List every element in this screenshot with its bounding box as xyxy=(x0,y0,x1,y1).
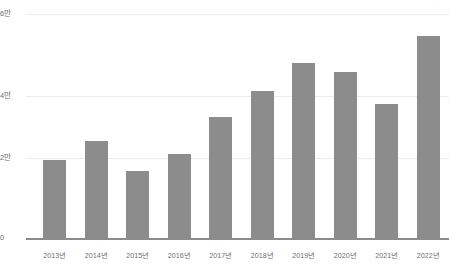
x-tick-label: 2017년 xyxy=(198,252,244,259)
y-tick-label-6: 6만 xyxy=(0,10,24,18)
y-tick-label-4: 4만 xyxy=(0,92,24,100)
bar[interactable] xyxy=(334,72,357,238)
y-tick-label-2: 2만 xyxy=(0,154,24,162)
bar[interactable] xyxy=(292,63,315,238)
x-tick-label: 2018년 xyxy=(239,252,285,259)
bar-series: 2013년2014년2015년2016년2017년2018년2019년2020년… xyxy=(26,0,449,267)
x-tick-label: 2020년 xyxy=(322,252,368,259)
x-tick-label: 2016년 xyxy=(156,252,202,259)
x-tick-label: 2019년 xyxy=(281,252,327,259)
x-tick-label: 2022년 xyxy=(405,252,449,259)
bar[interactable] xyxy=(375,104,398,238)
bar[interactable] xyxy=(43,160,66,238)
x-tick-label: 2013년 xyxy=(32,252,78,259)
bar[interactable] xyxy=(168,154,191,238)
bar[interactable] xyxy=(209,117,232,238)
bar[interactable] xyxy=(85,141,108,238)
bar[interactable] xyxy=(417,36,440,238)
y-tick-label-0: 0 xyxy=(0,234,24,242)
bar-chart: ··· 6만 4만 2만 0 2013년2014년2015년2016년2017년… xyxy=(0,0,449,267)
x-tick-label: 2021년 xyxy=(364,252,410,259)
plot-area: 2013년2014년2015년2016년2017년2018년2019년2020년… xyxy=(26,0,449,267)
bar[interactable] xyxy=(251,91,274,238)
x-tick-label: 2014년 xyxy=(73,252,119,259)
bar[interactable] xyxy=(126,171,149,238)
x-tick-label: 2015년 xyxy=(115,252,161,259)
